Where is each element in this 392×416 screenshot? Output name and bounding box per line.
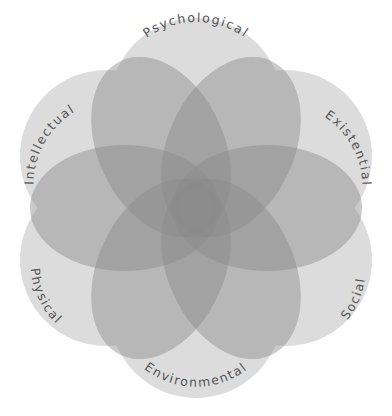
- wellness-flower-diagram: Psychological Existential Social Environ…: [0, 0, 392, 416]
